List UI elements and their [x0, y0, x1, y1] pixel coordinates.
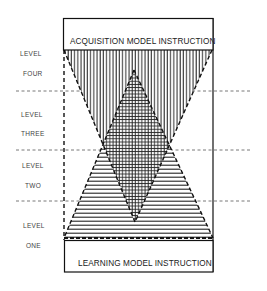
level-four-word: LEVEL: [20, 50, 42, 57]
level-one-number: ONE: [26, 242, 41, 249]
level-three-number: THREE: [21, 130, 45, 137]
level-three-word: LEVEL: [21, 111, 43, 118]
level-two-number: TWO: [25, 182, 41, 189]
learning-model-title: LEARNING MODEL INSTRUCTION: [78, 259, 212, 268]
level-two-word: LEVEL: [22, 162, 44, 169]
level-one-word: LEVEL: [23, 222, 45, 229]
acquisition-model-title: ACQUISITION MODEL INSTRUCTION: [70, 37, 215, 46]
level-four-number: FOUR: [23, 70, 43, 77]
